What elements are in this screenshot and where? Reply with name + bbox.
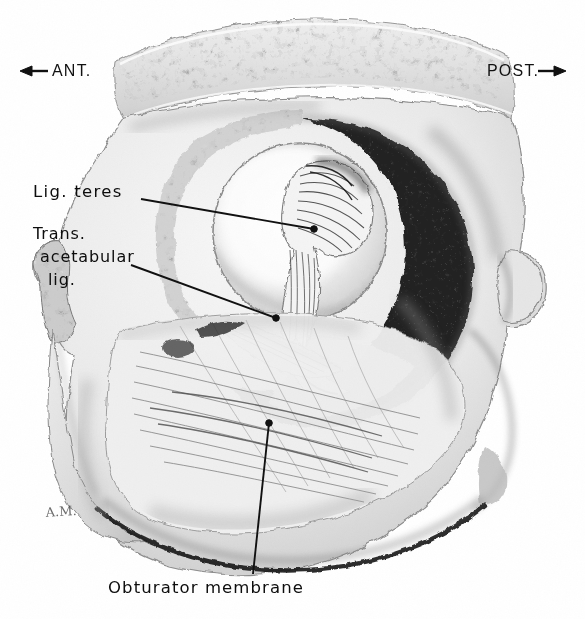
- acetabular-rim-trabecular-bone: [152, 108, 430, 430]
- inferior-ramus-margin: [96, 498, 486, 570]
- label-ligamentum-teres: Lig. teres: [33, 182, 123, 201]
- posterior-direction-label: POST.: [487, 62, 539, 80]
- paper-grain: [0, 0, 585, 619]
- anterior-direction-label: ANT.: [52, 62, 91, 80]
- lig-teres-leader: [141, 199, 317, 232]
- artist-signature: A.M.: [44, 503, 77, 520]
- obturator-membrane: [105, 314, 465, 533]
- illustration-canvas: A.M.: [0, 0, 585, 619]
- obturator-membrane-leader: [253, 420, 272, 574]
- iliac-cut-block: [110, 18, 520, 120]
- anatomical-figure: A.M. ANT. POST. Lig. teres Tra: [0, 0, 585, 619]
- leader-lines: [131, 199, 317, 574]
- label-obturator-membrane: Obturator membrane: [108, 578, 304, 597]
- lunate-articular-surface: [220, 105, 490, 440]
- orientation-arrows: [20, 66, 566, 76]
- ligamentum-teres: [281, 161, 373, 398]
- trans-acetabular-leader: [131, 265, 279, 321]
- label-transverse-acetabular-lig-line1: Trans.: [33, 224, 86, 243]
- transverse-acetabular-ligament: [224, 318, 342, 377]
- label-transverse-acetabular-lig-line3: lig.: [48, 270, 76, 289]
- ischial-tuberosity: [470, 252, 542, 510]
- tonal-shading: [83, 106, 498, 518]
- hip-bone-body: [34, 98, 547, 575]
- acetabular-fossa: [213, 143, 387, 321]
- posterior-arrow-icon: [538, 66, 566, 76]
- label-transverse-acetabular-lig-line2: acetabular: [40, 247, 135, 266]
- anterior-arrow-icon: [20, 66, 48, 76]
